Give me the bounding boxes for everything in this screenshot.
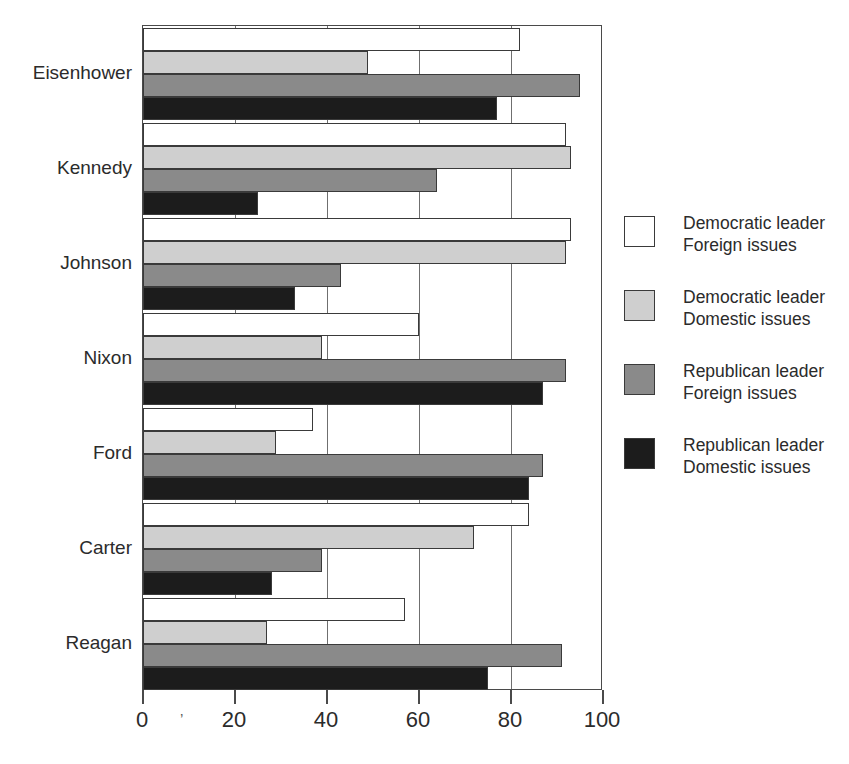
legend-swatch-icon: [624, 216, 655, 247]
legend-swatch-icon: [624, 438, 655, 469]
legend-label-line2: Domestic issues: [683, 308, 825, 330]
x-axis-tick: [602, 690, 604, 704]
legend-label-line1: Democratic leader: [683, 286, 825, 308]
bar: [143, 146, 571, 169]
bar: [143, 51, 368, 74]
bar: [143, 644, 562, 667]
legend-item[interactable]: Republican leaderDomestic issues: [624, 434, 849, 480]
bar: [143, 503, 529, 526]
x-axis-tick: [326, 690, 328, 704]
legend-item[interactable]: Republican leaderForeign issues: [624, 360, 849, 406]
legend-label: Republican leaderForeign issues: [683, 360, 824, 404]
legend-label-line1: Republican leader: [683, 360, 824, 382]
bar: [143, 667, 488, 690]
bar: [143, 97, 497, 120]
bar: [143, 477, 529, 500]
x-axis-tick-label: 40: [314, 708, 338, 732]
bar: [143, 313, 419, 336]
category-label-eisenhower: Eisenhower: [2, 63, 132, 82]
bar: [143, 598, 405, 621]
legend-item[interactable]: Democratic leaderForeign issues: [624, 212, 849, 258]
legend-item[interactable]: Democratic leaderDomestic issues: [624, 286, 849, 332]
bar: [143, 454, 543, 477]
stray-apostrophe-mark: ’: [180, 710, 183, 727]
x-axis-tick-label: 80: [498, 708, 522, 732]
legend-label-line1: Democratic leader: [683, 212, 825, 234]
category-label-nixon: Nixon: [2, 348, 132, 367]
x-axis-tick-label: 20: [222, 708, 246, 732]
legend-label: Democratic leaderDomestic issues: [683, 286, 825, 330]
category-label-ford: Ford: [2, 443, 132, 462]
x-axis-tick: [510, 690, 512, 704]
bar: [143, 359, 566, 382]
legend-label: Democratic leaderForeign issues: [683, 212, 825, 256]
bar: [143, 241, 566, 264]
x-axis: ’ 020406080100: [142, 690, 602, 750]
category-label-carter: Carter: [2, 538, 132, 557]
bar: [143, 74, 580, 97]
category-axis-labels: EisenhowerKennedyJohnsonNixonFordCarterR…: [0, 0, 132, 764]
bar: [143, 408, 313, 431]
legend-label-line2: Domestic issues: [683, 456, 824, 478]
x-axis-tick: [418, 690, 420, 704]
legend-label-line2: Foreign issues: [683, 382, 824, 404]
bar: [143, 123, 566, 146]
bar: [143, 192, 258, 215]
bar: [143, 218, 571, 241]
bar: [143, 549, 322, 572]
bar: [143, 382, 543, 405]
legend-swatch-icon: [624, 364, 655, 395]
category-label-kennedy: Kennedy: [2, 158, 132, 177]
legend-swatch-icon: [624, 290, 655, 321]
x-axis-tick-label: 100: [584, 708, 621, 732]
bar: [143, 526, 474, 549]
bar: [143, 287, 295, 310]
x-axis-tick: [234, 690, 236, 704]
bar-chart: EisenhowerKennedyJohnsonNixonFordCarterR…: [0, 0, 849, 764]
bar: [143, 336, 322, 359]
bar: [143, 431, 276, 454]
bar: [143, 621, 267, 644]
bar: [143, 572, 272, 595]
bar: [143, 169, 437, 192]
x-axis-tick-label: 0: [136, 708, 148, 732]
legend-label: Republican leaderDomestic issues: [683, 434, 824, 478]
legend-label-line2: Foreign issues: [683, 234, 825, 256]
bar: [143, 28, 520, 51]
category-label-reagan: Reagan: [2, 633, 132, 652]
category-label-johnson: Johnson: [2, 253, 132, 272]
legend-label-line1: Republican leader: [683, 434, 824, 456]
bar: [143, 264, 341, 287]
chart-legend: Democratic leaderForeign issuesDemocrati…: [624, 212, 849, 508]
x-axis-tick-label: 60: [406, 708, 430, 732]
x-axis-tick: [142, 690, 144, 704]
plot-area: [142, 25, 602, 690]
